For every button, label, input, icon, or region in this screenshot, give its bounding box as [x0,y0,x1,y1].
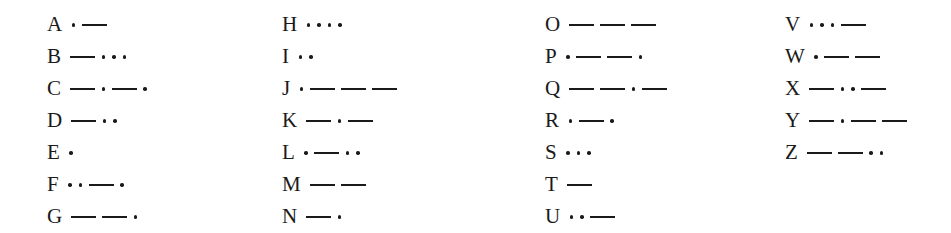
dot-icon [810,23,814,27]
morse-code-sequence [303,206,345,226]
dot-icon [299,55,303,59]
letter-label: I [282,46,289,67]
letter-label: Q [545,78,560,99]
morse-entry-u: U [545,200,670,232]
dot-icon [68,183,72,187]
letter-label: G [47,206,62,227]
dot-icon [72,23,76,27]
morse-entry-z: Z [785,136,910,168]
letter-label: R [545,110,559,131]
morse-entry-g: G [47,200,150,232]
morse-entry-j: J [282,72,400,104]
letter-label: N [282,206,297,227]
morse-code-sequence [67,78,150,98]
morse-code-sequence [564,174,595,194]
dash-icon [71,120,96,122]
dash-icon [579,120,604,122]
morse-entry-f: F [47,168,150,200]
morse-code-sequence [68,206,141,226]
morse-entry-a: A [47,8,150,40]
dash-icon [809,120,834,122]
dash-icon [855,56,880,58]
dot-icon [103,119,107,123]
morse-entry-x: X [785,72,910,104]
dash-icon [809,88,834,90]
morse-code-sequence [65,174,128,194]
dot-icon [69,151,73,155]
dot-icon [102,55,106,59]
dash-icon [642,88,667,90]
letter-label: D [47,110,62,131]
letter-label: B [47,46,61,67]
dash-icon [861,88,886,90]
morse-entry-d: D [47,104,150,136]
morse-code-sequence [563,142,595,162]
dot-icon [831,23,835,27]
morse-code-sequence [811,46,884,66]
letter-label: E [47,142,60,163]
morse-code-sequence [566,78,670,98]
dot-icon [304,151,308,155]
letter-label: V [785,14,800,35]
letter-label: Y [785,110,800,131]
dot-icon [566,55,570,59]
dash-icon [341,184,366,186]
dot-icon [851,87,855,91]
dot-icon [820,23,824,27]
morse-code-sequence [295,46,316,66]
morse-entry-s: S [545,136,670,168]
dash-icon [306,120,331,122]
morse-entry-e: E [47,136,150,168]
dash-icon [838,152,863,154]
morse-code-sequence [806,78,889,98]
dash-icon [824,56,849,58]
morse-entry-n: N [282,200,400,232]
dot-icon [610,119,614,123]
dot-icon [143,87,147,91]
dot-icon [338,119,342,123]
morse-code-sequence [563,46,646,66]
dot-icon [79,183,83,187]
morse-code-sequence [566,14,659,34]
morse-code-sequence [68,110,120,130]
morse-entry-y: Y [785,104,910,136]
morse-code-sequence [68,14,110,34]
dot-icon [113,119,117,123]
morse-column-4: VWXYZ [785,8,910,168]
morse-entry-l: L [282,136,400,168]
dot-icon [570,215,574,219]
dash-icon [70,56,95,58]
dash-icon [590,216,615,218]
dash-icon [341,88,366,90]
letter-label: O [545,14,560,35]
morse-code-sequence [806,110,910,130]
morse-entry-m: M [282,168,400,200]
morse-entry-w: W [785,40,910,72]
dot-icon [841,119,845,123]
letter-label: M [282,174,301,195]
morse-entry-t: T [545,168,670,200]
dot-icon [317,23,321,27]
morse-entry-q: Q [545,72,670,104]
letter-label: X [785,78,800,99]
morse-entry-o: O [545,8,670,40]
morse-entry-h: H [282,8,400,40]
dash-icon [569,88,594,90]
dot-icon [300,87,304,91]
dot-icon [566,151,570,155]
dot-icon [356,151,360,155]
morse-code-sequence [66,142,77,162]
dash-icon [851,120,876,122]
morse-code-sequence [804,142,887,162]
letter-label: U [545,206,560,227]
dash-icon [576,56,601,58]
dash-icon [600,88,625,90]
dot-icon [580,215,584,219]
morse-entry-c: C [47,72,150,104]
letter-label: P [545,46,557,67]
morse-column-1: ABCDEFG [47,8,150,232]
dash-icon [71,216,96,218]
dash-icon [348,120,373,122]
dash-icon [102,216,127,218]
dash-icon [112,88,137,90]
